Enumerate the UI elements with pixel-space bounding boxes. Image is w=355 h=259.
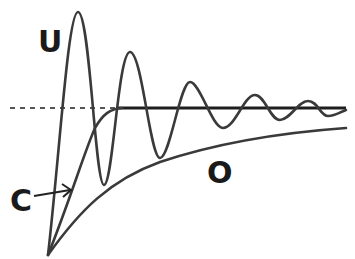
overdamped-curve <box>48 128 346 255</box>
damping-diagram: U C O <box>0 0 355 259</box>
label-overdamped: O <box>207 155 233 190</box>
label-critically-damped: C <box>10 183 32 218</box>
label-underdamped: U <box>38 24 62 59</box>
